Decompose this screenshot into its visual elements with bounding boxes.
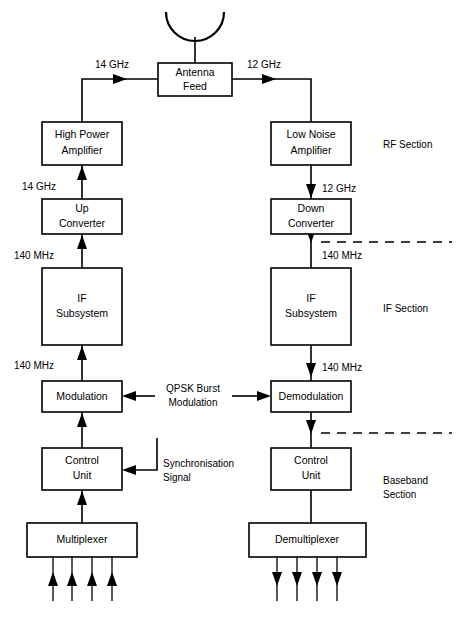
- edge-label-synchronisation-line-1: Synchronisation: [163, 458, 234, 469]
- wire-hpa-to-antenna-feed: [82, 74, 158, 122]
- block-demultiplexer[interactable]: Demultiplexer: [249, 523, 366, 557]
- block-modulation[interactable]: Modulation: [42, 381, 122, 412]
- block-low-noise-amplifier[interactable]: Low Noise Amplifier: [271, 122, 351, 165]
- block-low-noise-amplifier-label-2: Amplifier: [291, 144, 332, 156]
- block-if-subsystem-receive-label-2: Subsystem: [285, 307, 337, 319]
- block-high-power-amplifier-label-2: Amplifier: [62, 144, 103, 156]
- wire-modulation-to-if-tx: [77, 345, 87, 381]
- block-control-unit-transmit-label-2: Unit: [73, 469, 92, 481]
- arrowhead-right: [262, 74, 276, 84]
- arrowhead-up: [87, 572, 97, 586]
- tributary-input-line: [67, 557, 77, 601]
- block-up-converter-label-2: Converter: [59, 217, 106, 229]
- section-label-baseband-line-2: Section: [383, 489, 416, 500]
- edge-label-synchronisation-line-2: Signal: [163, 472, 191, 483]
- block-up-converter-label-1: Up: [75, 202, 89, 214]
- block-down-converter[interactable]: Down Converter: [271, 199, 351, 234]
- edge-label-if-receive-upper-frequency: 140 MHz: [322, 250, 362, 261]
- block-down-converter-label-1: Down: [298, 202, 325, 214]
- arrowhead-up: [77, 413, 87, 427]
- section-label-rf: RF Section: [383, 139, 432, 150]
- edge-label-if-transmit-lower-frequency: 140 MHz: [14, 360, 54, 371]
- wire-if-rx-to-demodulation: [306, 345, 316, 381]
- section-label-baseband-line-1: Baseband: [383, 475, 428, 486]
- arrowhead-right: [257, 391, 271, 401]
- block-antenna-feed-label-2: Feed: [183, 80, 207, 92]
- block-multiplexer[interactable]: Multiplexer: [27, 523, 137, 557]
- wire-control-tx-to-modulation: [77, 412, 87, 448]
- edge-label-tx-antenna-frequency: 14 GHz: [95, 59, 129, 70]
- arrowhead-down: [332, 572, 342, 586]
- edge-label-rx-antenna-frequency: 12 GHz: [247, 59, 281, 70]
- wire-qpsk-to-demodulation: [232, 391, 271, 401]
- wire-demodulation-to-control-rx: [306, 412, 316, 448]
- block-demodulation[interactable]: Demodulation: [271, 381, 351, 412]
- block-if-subsystem-transmit[interactable]: IF Subsystem: [42, 268, 122, 345]
- arrowhead-up: [77, 491, 87, 505]
- tributary-output-line: [312, 557, 322, 601]
- block-if-subsystem-transmit-label-1: IF: [77, 292, 86, 304]
- block-antenna-feed-label-1: Antenna: [175, 66, 214, 78]
- wire-synchronisation-signal: [122, 438, 157, 475]
- arrowhead-up: [77, 235, 87, 249]
- block-up-converter[interactable]: Up Converter: [42, 199, 122, 234]
- block-if-subsystem-transmit-label-2: Subsystem: [56, 307, 108, 319]
- block-antenna-feed[interactable]: Antenna Feed: [158, 63, 232, 96]
- arrowhead-left: [122, 465, 136, 475]
- arrowhead-left: [122, 391, 136, 401]
- arrowhead-down: [306, 184, 316, 198]
- arrowhead-down: [312, 572, 322, 586]
- arrowhead-up: [67, 572, 77, 586]
- block-demultiplexer-label: Demultiplexer: [275, 533, 340, 545]
- wire-antenna-feed-to-lna: [232, 74, 311, 122]
- arrowhead-right: [113, 74, 127, 84]
- arrowhead-down: [306, 420, 316, 434]
- edge-label-qpsk-line-2: Modulation: [169, 397, 218, 408]
- block-control-unit-receive[interactable]: Control Unit: [271, 448, 351, 490]
- section-label-if: IF Section: [383, 303, 428, 314]
- edge-label-upconverter-output-frequency: 14 GHz: [22, 181, 56, 192]
- demultiplexer-tributary-outputs: [272, 557, 342, 601]
- edge-label-downconverter-input-frequency: 12 GHz: [322, 183, 356, 194]
- arrowhead-up: [77, 166, 87, 180]
- block-control-unit-receive-label-2: Unit: [302, 469, 321, 481]
- wire-upconverter-to-hpa: [77, 165, 87, 199]
- arrowhead-down: [292, 572, 302, 586]
- wire-downconverter-to-if-rx: [306, 229, 316, 268]
- tributary-input-line: [48, 557, 58, 601]
- wire-qpsk-to-modulation: [122, 391, 155, 401]
- block-down-converter-label-2: Converter: [288, 217, 335, 229]
- satellite-earth-station-diagram: Antenna Feed High Power Amplifier Low No…: [0, 0, 456, 622]
- block-modulation-label: Modulation: [56, 390, 108, 402]
- edge-label-if-receive-lower-frequency: 140 MHz: [322, 362, 362, 373]
- tributary-output-line: [332, 557, 342, 601]
- block-if-subsystem-receive-label-1: IF: [306, 292, 315, 304]
- tributary-output-line: [292, 557, 302, 601]
- block-control-unit-transmit[interactable]: Control Unit: [42, 448, 122, 490]
- multiplexer-tributary-inputs: [48, 557, 117, 601]
- wire-lna-to-downconverter: [306, 165, 316, 199]
- block-control-unit-transmit-label-1: Control: [65, 454, 99, 466]
- block-control-unit-receive-label-1: Control: [294, 454, 328, 466]
- block-multiplexer-label: Multiplexer: [57, 533, 108, 545]
- wire-if-tx-to-upconverter: [77, 234, 87, 268]
- block-if-subsystem-receive[interactable]: IF Subsystem: [271, 268, 351, 345]
- edge-label-qpsk-line-1: QPSK Burst: [166, 383, 220, 394]
- arrowhead-down: [306, 363, 316, 377]
- tributary-input-line: [107, 557, 117, 601]
- edge-label-if-transmit-upper-frequency: 140 MHz: [14, 250, 54, 261]
- arrowhead-up: [77, 346, 87, 360]
- antenna-dish-icon: [166, 12, 224, 63]
- tributary-output-line: [272, 557, 282, 601]
- wire-multiplexer-to-control-tx: [77, 490, 87, 523]
- block-high-power-amplifier[interactable]: High Power Amplifier: [42, 122, 122, 165]
- block-demodulation-label: Demodulation: [279, 390, 344, 402]
- block-low-noise-amplifier-label-1: Low Noise: [286, 128, 335, 140]
- block-diagram-canvas: Antenna Feed High Power Amplifier Low No…: [0, 0, 456, 622]
- arrowhead-up: [107, 572, 117, 586]
- arrowhead-down: [272, 572, 282, 586]
- tributary-input-line: [87, 557, 97, 601]
- arrowhead-up: [48, 572, 58, 586]
- block-high-power-amplifier-label-1: High Power: [55, 128, 110, 140]
